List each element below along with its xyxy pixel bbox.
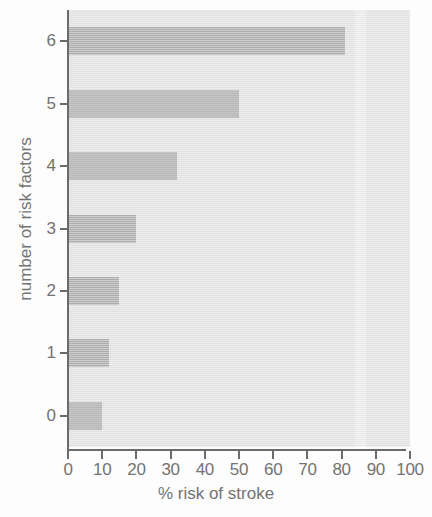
bar-4[interactable] (68, 152, 177, 180)
bar-row (68, 152, 410, 180)
x-tick-label: 90 (367, 460, 385, 480)
x-tick-label: 30 (161, 460, 179, 480)
y-axis-line (67, 10, 69, 451)
x-tick-label: 10 (93, 460, 111, 480)
x-tick-label: 60 (264, 460, 282, 480)
y-tick-label: 4 (47, 156, 56, 176)
x-tick-label: 20 (127, 460, 145, 480)
x-tick-mark (67, 451, 69, 459)
x-axis-line (67, 449, 406, 451)
bar-0[interactable] (68, 402, 102, 430)
x-tick-mark (341, 451, 343, 459)
y-tick-mark (60, 165, 68, 167)
bar-2[interactable] (68, 277, 119, 305)
bar-row (68, 402, 410, 430)
chart-figure: 0102030405060708090100 0123456 % risk of… (0, 0, 432, 517)
y-tick-label: 5 (47, 94, 56, 114)
x-tick-mark (238, 451, 240, 459)
x-tick-label: 80 (332, 460, 350, 480)
x-tick-label: 40 (196, 460, 214, 480)
y-axis-title: number of risk factors (16, 99, 36, 339)
y-tick-label: 6 (47, 31, 56, 51)
x-tick-label: 70 (298, 460, 316, 480)
y-tick-label: 2 (47, 281, 56, 301)
bar-5[interactable] (68, 90, 239, 118)
x-tick-label: 50 (230, 460, 248, 480)
x-tick-mark (409, 451, 411, 459)
x-tick-mark (101, 451, 103, 459)
bar-6[interactable] (68, 27, 345, 55)
x-tick-label: 100 (396, 460, 423, 480)
bar-row (68, 215, 410, 243)
x-tick-mark (204, 451, 206, 459)
bar-row (68, 90, 410, 118)
y-tick-mark (60, 103, 68, 105)
bar-row (68, 277, 410, 305)
y-tick-mark (60, 228, 68, 230)
y-tick-label: 0 (47, 406, 56, 426)
x-tick-label: 0 (63, 460, 72, 480)
plot-area (68, 10, 410, 447)
y-tick-label: 3 (47, 219, 56, 239)
y-tick-mark (60, 415, 68, 417)
x-tick-mark (135, 451, 137, 459)
bar-3[interactable] (68, 215, 136, 243)
y-tick-mark (60, 40, 68, 42)
x-tick-mark (306, 451, 308, 459)
y-tick-mark (60, 290, 68, 292)
x-axis-title: % risk of stroke (0, 484, 432, 504)
x-tick-mark (272, 451, 274, 459)
bar-row (68, 27, 410, 55)
bar-row (68, 339, 410, 367)
x-tick-mark (170, 451, 172, 459)
x-tick-mark (375, 451, 377, 459)
y-tick-mark (60, 352, 68, 354)
bar-1[interactable] (68, 339, 109, 367)
y-tick-label: 1 (47, 343, 56, 363)
